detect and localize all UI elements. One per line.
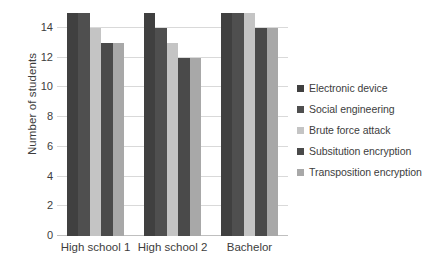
x-tick-label: High school 2 [134, 240, 211, 254]
bar [78, 13, 90, 236]
plot-area [57, 13, 288, 236]
chart-legend: Electronic deviceSocial engineeringBrute… [297, 78, 436, 183]
legend-item[interactable]: Transposition encryption [297, 162, 436, 183]
bar-chart: Number of students 02468101214 High scho… [0, 0, 436, 269]
bar [101, 43, 113, 236]
legend-label: Subsitution encryption [309, 146, 411, 157]
bar [244, 13, 256, 236]
legend-swatch-icon [297, 127, 304, 134]
bars-layer [57, 13, 288, 236]
bar [67, 13, 79, 236]
y-tick-label-4: 4 [31, 171, 53, 182]
x-tick-label: High school 1 [57, 240, 134, 254]
bar [90, 28, 102, 236]
bar-group [221, 13, 279, 236]
y-tick-label-2: 2 [31, 200, 53, 211]
legend-item[interactable]: Social engineering [297, 99, 436, 120]
legend-label: Transposition encryption [309, 167, 422, 178]
y-tick-label-10: 10 [31, 81, 53, 92]
y-tick-label-6: 6 [31, 141, 53, 152]
bar [267, 28, 279, 236]
legend-label: Brute force attack [309, 125, 390, 136]
x-axis-tick-labels: High school 1High school 2Bachelor [57, 240, 288, 260]
bar [155, 28, 167, 236]
legend-swatch-icon [297, 85, 304, 92]
legend-swatch-icon [297, 169, 304, 176]
bar [178, 58, 190, 236]
legend-swatch-icon [297, 148, 304, 155]
x-tick-label: Bachelor [211, 240, 288, 254]
y-tick-label-0: 0 [31, 230, 53, 241]
legend-swatch-icon [297, 106, 304, 113]
legend-label: Social engineering [309, 104, 395, 115]
legend-label: Electronic device [309, 83, 388, 94]
bar [221, 13, 233, 236]
bar-group [144, 13, 202, 236]
bar [113, 43, 125, 236]
y-tick-label-14: 14 [31, 22, 53, 33]
bar [255, 28, 267, 236]
legend-item[interactable]: Electronic device [297, 78, 436, 99]
bar [232, 13, 244, 236]
legend-item[interactable]: Brute force attack [297, 120, 436, 141]
bar [190, 58, 202, 236]
bar [144, 13, 156, 236]
bar [167, 43, 179, 236]
bar-group [67, 13, 125, 236]
y-tick-label-8: 8 [31, 111, 53, 122]
y-axis-tick-labels: 02468101214 [27, 13, 53, 236]
y-tick-label-12: 12 [31, 52, 53, 63]
legend-item[interactable]: Subsitution encryption [297, 141, 436, 162]
